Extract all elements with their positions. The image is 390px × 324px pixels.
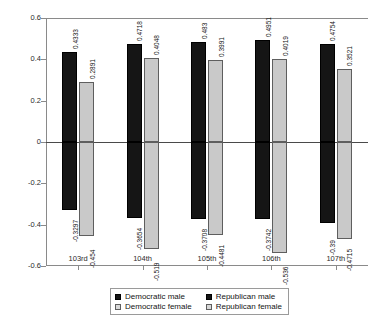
legend-item-democratic-female: Democratic female: [115, 302, 192, 311]
bar-value-label: 0.3521: [347, 46, 354, 66]
bar-value-label: 0.483: [202, 23, 209, 39]
y-axis-tick-label: -0.6: [28, 262, 41, 270]
bar: [79, 142, 94, 236]
x-axis-tick: [78, 265, 79, 270]
y-axis-tick: [41, 183, 46, 184]
bar-value-label: 0.4048: [154, 35, 161, 55]
x-axis-tick-label: 104th: [133, 254, 152, 263]
bar: [337, 142, 352, 239]
bar-value-label: 0.4718: [137, 22, 144, 42]
x-axis-tick-label: 103rd: [69, 254, 88, 263]
x-axis-tick: [271, 265, 272, 270]
bar: [191, 42, 206, 142]
y-axis-tick-label: 0.4: [31, 55, 41, 63]
bar: [272, 59, 287, 142]
x-axis-tick: [336, 265, 337, 270]
y-axis-tick-label: -0.2: [28, 179, 41, 187]
bar-value-label: 0.4951: [266, 17, 273, 37]
x-axis-tick-label: 107th: [326, 254, 345, 263]
legend-label: Republican female: [216, 302, 282, 311]
bar-chart: -0.3297-0.4540.43330.2891-0.3654-0.5190.…: [0, 0, 390, 324]
bar: [191, 142, 206, 219]
y-axis-tick: [41, 225, 46, 226]
legend-swatch-icon: [206, 304, 212, 310]
bar-value-label: -0.454: [90, 249, 97, 267]
legend-swatch-icon: [115, 294, 121, 300]
x-axis-tick: [207, 265, 208, 270]
bar-value-label: -0.519: [154, 263, 161, 281]
y-axis-tick-label: 0: [37, 138, 41, 146]
bar-value-label: -0.39: [330, 240, 337, 255]
legend-item-republican-female: Republican female: [206, 302, 282, 311]
bar-value-label: 0.4333: [73, 30, 80, 50]
y-axis-tick: [41, 59, 46, 60]
bar-value-label: -0.4715: [347, 249, 354, 271]
bar: [337, 69, 352, 142]
bar: [208, 60, 223, 142]
bar: [255, 142, 270, 219]
x-axis-tick: [143, 265, 144, 270]
y-axis-tick: [41, 101, 46, 102]
bar-value-label: 0.4019: [283, 36, 290, 56]
bar: [62, 52, 77, 142]
plot-top-border: [46, 18, 368, 19]
bar: [272, 142, 287, 253]
chart-legend: Democratic male Republican male Democrat…: [110, 288, 289, 315]
y-axis-tick: [41, 266, 46, 267]
x-axis-tick-label: 105th: [198, 254, 217, 263]
x-axis-tick-label: 106th: [262, 254, 281, 263]
bar-value-label: 0.4754: [330, 21, 337, 41]
legend-label: Democratic male: [125, 292, 185, 301]
bar: [320, 142, 335, 223]
bar: [127, 142, 142, 218]
y-axis-tick-label: 0.2: [31, 97, 41, 105]
bar: [144, 142, 159, 249]
bar-value-label: 0.2891: [90, 59, 97, 79]
bar: [320, 44, 335, 142]
legend-swatch-icon: [115, 304, 121, 310]
y-axis-tick: [41, 18, 46, 19]
bar: [127, 44, 142, 142]
bar: [79, 82, 94, 142]
legend-item-democratic-male: Democratic male: [115, 292, 192, 301]
y-axis-tick-label: -0.4: [28, 221, 41, 229]
y-axis-tick: [41, 142, 46, 143]
bar-value-label: -0.536: [283, 266, 290, 284]
bar-value-label: 0.3991: [219, 37, 226, 57]
legend-item-republican-male: Republican male: [206, 292, 282, 301]
y-axis-tick-label: 0.6: [31, 14, 41, 22]
plot-area: -0.3297-0.4540.43330.2891-0.3654-0.5190.…: [46, 18, 368, 266]
legend-label: Republican male: [216, 292, 276, 301]
bar: [62, 142, 77, 210]
bar: [255, 40, 270, 142]
bar: [208, 142, 223, 235]
legend-label: Democratic female: [125, 302, 192, 311]
legend-swatch-icon: [206, 294, 212, 300]
bar: [144, 58, 159, 142]
bar-value-label: -0.4481: [219, 245, 226, 267]
